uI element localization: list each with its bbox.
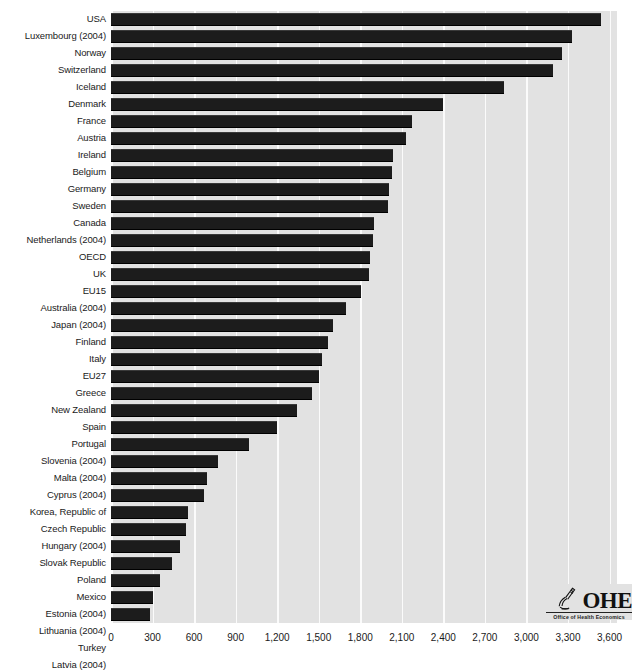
bar-row bbox=[111, 249, 617, 266]
bar-row bbox=[111, 453, 617, 470]
logo-wordmark: OHE bbox=[582, 589, 632, 612]
bar bbox=[111, 64, 553, 77]
category-label: Canada bbox=[0, 218, 106, 228]
bar-row bbox=[111, 181, 617, 198]
category-label: Japan (2004) bbox=[0, 320, 106, 330]
bar-row bbox=[111, 79, 617, 96]
category-label: New Zealand bbox=[0, 405, 106, 415]
bar bbox=[111, 404, 297, 417]
bar bbox=[111, 234, 373, 247]
bar bbox=[111, 506, 188, 519]
category-label: Italy bbox=[0, 354, 106, 364]
bar bbox=[111, 353, 322, 366]
bar bbox=[111, 591, 153, 604]
logo-main: OHE bbox=[558, 586, 632, 612]
bar bbox=[111, 115, 412, 128]
bar bbox=[111, 200, 388, 213]
bar bbox=[111, 132, 406, 145]
bar bbox=[111, 149, 393, 162]
x-tick-label: 3,600 bbox=[597, 632, 622, 643]
bar bbox=[111, 421, 277, 434]
bar bbox=[111, 557, 172, 570]
bar-row bbox=[111, 470, 617, 487]
category-label: Belgium bbox=[0, 167, 106, 177]
category-label: UK bbox=[0, 269, 106, 279]
category-label: Spain bbox=[0, 422, 106, 432]
x-tick-label: 3,300 bbox=[555, 632, 580, 643]
category-label: Slovak Republic bbox=[0, 558, 106, 568]
category-label: EU15 bbox=[0, 286, 106, 296]
x-tick-label: 0 bbox=[108, 632, 114, 643]
plot-area bbox=[111, 11, 617, 623]
x-tick-label: 900 bbox=[227, 632, 244, 643]
bar-row bbox=[111, 130, 617, 147]
bar-row bbox=[111, 487, 617, 504]
category-label: Norway bbox=[0, 48, 106, 58]
category-label: EU27 bbox=[0, 371, 106, 381]
category-label: Korea, Republic of bbox=[0, 507, 106, 517]
bar bbox=[111, 540, 180, 553]
bar bbox=[111, 217, 374, 230]
x-tick-label: 1,200 bbox=[265, 632, 290, 643]
bar-chart: USALuxembourg (2004)NorwaySwitzerlandIce… bbox=[0, 0, 638, 670]
bar bbox=[111, 98, 443, 111]
bar-row bbox=[111, 283, 617, 300]
bar-row bbox=[111, 164, 617, 181]
bar-row bbox=[111, 62, 617, 79]
category-label: Portugal bbox=[0, 439, 106, 449]
bar-row bbox=[111, 45, 617, 62]
category-label: Australia (2004) bbox=[0, 303, 106, 313]
category-label: OECD bbox=[0, 252, 106, 262]
category-label: Finland bbox=[0, 337, 106, 347]
category-label: Czech Republic bbox=[0, 524, 106, 534]
category-label: Sweden bbox=[0, 201, 106, 211]
bar-row bbox=[111, 351, 617, 368]
category-label: France bbox=[0, 116, 106, 126]
category-axis-labels: USALuxembourg (2004)NorwaySwitzerlandIce… bbox=[0, 11, 110, 623]
category-label: Hungary (2004) bbox=[0, 541, 106, 551]
category-label: Cyprus (2004) bbox=[0, 490, 106, 500]
category-label: Austria bbox=[0, 133, 106, 143]
bar bbox=[111, 302, 346, 315]
x-tick-label: 300 bbox=[144, 632, 161, 643]
bar bbox=[111, 81, 504, 94]
bar-row bbox=[111, 198, 617, 215]
category-label: Lithuania (2004) bbox=[0, 626, 106, 636]
bar bbox=[111, 183, 389, 196]
bar bbox=[111, 455, 218, 468]
bar bbox=[111, 370, 319, 383]
bar-row bbox=[111, 317, 617, 334]
category-label: Mexico bbox=[0, 592, 106, 602]
category-label: Malta (2004) bbox=[0, 473, 106, 483]
bar bbox=[111, 30, 572, 43]
category-label: Ireland bbox=[0, 150, 106, 160]
bar-row bbox=[111, 147, 617, 164]
bar-row bbox=[111, 113, 617, 130]
category-label: Germany bbox=[0, 184, 106, 194]
category-label: Estonia (2004) bbox=[0, 609, 106, 619]
bar-row bbox=[111, 368, 617, 385]
bar-row bbox=[111, 334, 617, 351]
x-tick-label: 2,400 bbox=[431, 632, 456, 643]
bar bbox=[111, 574, 160, 587]
x-tick-label: 600 bbox=[186, 632, 203, 643]
bar-row bbox=[111, 232, 617, 249]
bar-row bbox=[111, 11, 617, 28]
bar-row bbox=[111, 504, 617, 521]
category-label: Slovenia (2004) bbox=[0, 456, 106, 466]
x-tick-label: 1,500 bbox=[306, 632, 331, 643]
logo-tagline: Office of Health Economics bbox=[546, 612, 632, 620]
category-label: Switzerland bbox=[0, 65, 106, 75]
bar-row bbox=[111, 436, 617, 453]
category-label: USA bbox=[0, 14, 106, 24]
bar-row bbox=[111, 538, 617, 555]
bar bbox=[111, 319, 333, 332]
bar bbox=[111, 285, 361, 298]
bar-row bbox=[111, 300, 617, 317]
bar bbox=[111, 336, 328, 349]
bar-row bbox=[111, 402, 617, 419]
x-tick-label: 3,000 bbox=[514, 632, 539, 643]
x-tick-label: 2,700 bbox=[472, 632, 497, 643]
bar bbox=[111, 489, 204, 502]
bar bbox=[111, 47, 562, 60]
